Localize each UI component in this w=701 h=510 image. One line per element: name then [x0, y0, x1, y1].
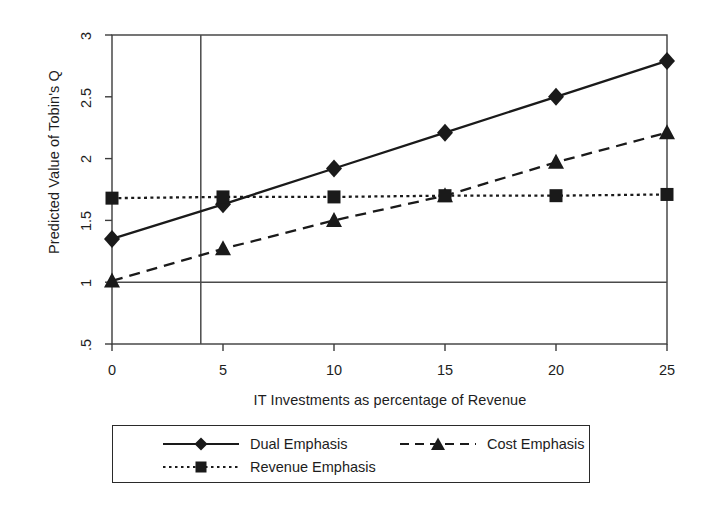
- data-point: [548, 154, 564, 169]
- legend-entry-dual-emphasis: Dual Emphasis: [161, 434, 348, 454]
- data-point: [215, 240, 231, 255]
- series-revenue-emphasis: [106, 188, 674, 205]
- legend-swatch-cost-emphasis: [398, 434, 478, 454]
- data-point: [217, 190, 230, 203]
- chart-legend: Dual Emphasis Cost Emphasis Revenue Emph…: [112, 425, 590, 483]
- reference-lines-layer: [112, 35, 667, 344]
- axes-layer: [105, 35, 667, 351]
- data-point: [439, 189, 452, 202]
- legend-label-dual-emphasis: Dual Emphasis: [250, 436, 348, 452]
- data-point: [328, 190, 341, 203]
- legend-swatch-dual-emphasis: [161, 434, 241, 454]
- series-cost-emphasis: [104, 124, 675, 287]
- data-point: [548, 88, 564, 106]
- data-point: [104, 230, 120, 248]
- data-point: [437, 124, 453, 142]
- legend-label-cost-emphasis: Cost Emphasis: [487, 436, 585, 452]
- series-dual-emphasis: [104, 52, 675, 248]
- data-point: [550, 189, 563, 202]
- data-point: [659, 124, 675, 139]
- data-series-layer: [104, 52, 675, 288]
- legend-entry-cost-emphasis: Cost Emphasis: [398, 434, 585, 454]
- chart-figure: Predicted Value of Tobin's Q IT Investme…: [0, 0, 701, 510]
- data-point: [661, 188, 674, 201]
- legend-label-revenue-emphasis: Revenue Emphasis: [250, 459, 376, 475]
- legend-entry-revenue-emphasis: Revenue Emphasis: [161, 457, 376, 477]
- data-point: [659, 52, 675, 70]
- data-point: [326, 159, 342, 177]
- legend-swatch-revenue-emphasis: [161, 457, 241, 477]
- data-point: [106, 192, 119, 205]
